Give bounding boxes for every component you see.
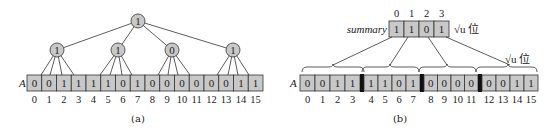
- summary-bit: 0: [424, 23, 430, 35]
- panel-b: 0 1 2 3 summary 1 1 0 1 √u 位: [289, 8, 538, 124]
- index-label: 0: [305, 94, 310, 105]
- bit-cell: 0: [500, 77, 506, 89]
- index-label: 10: [453, 94, 464, 105]
- level1-value: 1: [54, 44, 60, 56]
- summary-indices: 0 1 2 3: [394, 8, 444, 19]
- index-label: 3: [350, 94, 355, 105]
- summary-index: 2: [424, 8, 429, 19]
- index-label: 14: [236, 94, 247, 105]
- index-label: 15: [250, 94, 261, 105]
- bit-cell: 0: [179, 77, 185, 89]
- bit-cell: 1: [238, 77, 244, 89]
- index-label: 9: [442, 94, 447, 105]
- bit-cell: 0: [396, 77, 402, 89]
- index-label: 4: [91, 94, 97, 105]
- summary-index: 0: [394, 8, 399, 19]
- summary-bit: 1: [394, 23, 400, 35]
- index-labels-a: 0 1 2 3 4 5 6 7 8 9 10 11 12 13 14 15: [32, 94, 261, 105]
- bit-cell: 1: [105, 77, 111, 89]
- bit-cell: 0: [428, 77, 434, 89]
- tree-level1-node-2: 0: [165, 43, 179, 57]
- index-label: 7: [135, 94, 140, 105]
- index-label: 15: [526, 94, 537, 105]
- bit-cell: 1: [382, 77, 388, 89]
- index-label: 13: [221, 94, 232, 105]
- bit-cell: 0: [305, 77, 311, 89]
- bit-cell: 0: [120, 77, 126, 89]
- caption-a: (a): [131, 113, 145, 124]
- bit-array-b: 0 0 1 1 1 1 0 1 0 0 0 0 0 0 1 1: [300, 74, 538, 92]
- bit-cell: 0: [164, 77, 170, 89]
- bit-cell: 1: [514, 77, 520, 89]
- index-label: 2: [61, 94, 66, 105]
- tree-level1-node-3: 1: [226, 43, 240, 57]
- index-labels-b: 0 1 2 3 4 5 6 7 8 9 10 11 12 13 14 15: [305, 94, 536, 105]
- index-label: 14: [512, 94, 523, 105]
- summary-index: 1: [409, 8, 414, 19]
- bit-cell: 1: [76, 77, 82, 89]
- bit-cell: 1: [410, 77, 416, 89]
- cluster-separator: [360, 74, 364, 92]
- index-label: 4: [368, 94, 374, 105]
- summary-bit: 1: [439, 23, 445, 35]
- index-label: 9: [164, 94, 169, 105]
- index-label: 6: [120, 94, 125, 105]
- summary-bit: 1: [409, 23, 415, 35]
- tree-edges-root: [57, 21, 233, 50]
- array-label-b: A: [289, 77, 297, 89]
- tree-level1-node-1: 1: [111, 43, 125, 57]
- diagram-canvas: 1 1 1 0 1 A: [0, 0, 549, 129]
- bit-cell: 0: [486, 77, 492, 89]
- cluster-braces: [302, 64, 537, 72]
- panel-a: 1 1 1 0 1 A: [18, 14, 263, 124]
- bit-cell: 1: [335, 77, 341, 89]
- tree-level1-node-0: 1: [50, 43, 64, 57]
- index-label: 1: [320, 94, 325, 105]
- index-label: 13: [498, 94, 509, 105]
- summary-to-cluster-edges: [333, 37, 510, 65]
- index-label: 11: [192, 94, 202, 105]
- cluster-size-label: √u 位: [505, 52, 530, 65]
- bit-cell: 0: [455, 77, 461, 89]
- level1-value: 0: [169, 44, 175, 56]
- bit-cell: 0: [194, 77, 200, 89]
- index-label: 5: [382, 94, 387, 105]
- caption-b: (b): [393, 113, 407, 124]
- bit-cell: 0: [150, 77, 156, 89]
- index-label: 0: [32, 94, 37, 105]
- bit-cell: 0: [469, 77, 475, 89]
- bit-cell: 0: [223, 77, 229, 89]
- bit-array-a: 0 0 1 1 1 1 0 1 0 0 0 0 0 0 1 1: [27, 75, 263, 91]
- bit-cell: 0: [32, 77, 38, 89]
- index-label: 8: [150, 94, 155, 105]
- bit-cell: 1: [368, 77, 374, 89]
- index-label: 1: [46, 94, 51, 105]
- array-label-a: A: [18, 77, 26, 89]
- index-label: 11: [466, 94, 476, 105]
- bit-cell: 0: [46, 77, 52, 89]
- level1-value: 1: [115, 44, 121, 56]
- index-label: 12: [484, 94, 495, 105]
- bit-cell: 0: [442, 77, 448, 89]
- cluster-separator: [478, 74, 482, 92]
- index-label: 3: [76, 94, 81, 105]
- bit-cell: 1: [135, 77, 141, 89]
- index-label: 7: [410, 94, 415, 105]
- tree-edges-leaves: [41, 50, 249, 75]
- index-label: 2: [335, 94, 340, 105]
- level1-value: 1: [230, 44, 236, 56]
- summary-size-label: √u 位: [454, 22, 479, 35]
- bit-cell: 1: [253, 77, 259, 89]
- summary-label: summary: [347, 23, 387, 35]
- index-label: 10: [177, 94, 188, 105]
- tree-root-node: 1: [131, 14, 145, 28]
- cluster-separator: [420, 74, 424, 92]
- index-label: 5: [105, 94, 110, 105]
- bit-cell: 1: [91, 77, 97, 89]
- bit-cell: 0: [209, 77, 215, 89]
- bit-cell: 1: [528, 77, 534, 89]
- bit-cell: 1: [61, 77, 67, 89]
- root-value: 1: [135, 15, 141, 27]
- summary-array: 1 1 0 1: [389, 21, 449, 37]
- summary-index: 3: [439, 8, 444, 19]
